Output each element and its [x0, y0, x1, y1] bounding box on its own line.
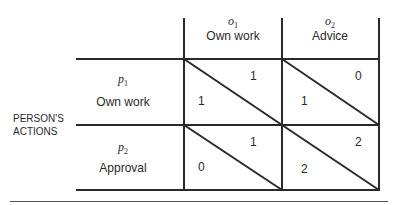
cell-r1c1-upper-payoff: 1: [250, 69, 257, 83]
cell-r1c2-upper-payoff: 0: [355, 69, 362, 83]
row-axis-label-line-1: PERSON'S: [13, 113, 64, 124]
row-header-1-symbol: p1: [118, 72, 128, 88]
cell-r2c1-lower-payoff: 0: [198, 160, 205, 174]
cell-r2c2-upper-payoff: 2: [355, 135, 362, 149]
row-axis-label-line-2: ACTIONS: [13, 126, 57, 137]
cell-r2c1-upper-payoff: 1: [250, 135, 257, 149]
cell-r2c2-lower-payoff: 2: [301, 162, 308, 176]
column-header-1-label: Own work: [206, 29, 259, 43]
column-header-2-label: Advice: [312, 29, 348, 43]
cell-r1c1-lower-payoff: 1: [198, 94, 205, 108]
cell-r1c2-lower-payoff: 1: [301, 94, 308, 108]
row-header-2-label: Approval: [99, 161, 146, 175]
row-header-1-label: Own work: [96, 95, 149, 109]
row-header-2-symbol: p2: [118, 140, 128, 156]
column-header-1-symbol: o1: [228, 14, 238, 30]
column-header-2-symbol: o2: [325, 14, 335, 30]
